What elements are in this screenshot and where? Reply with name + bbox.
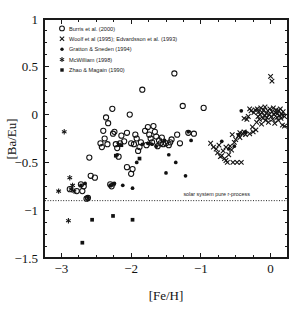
- y-tick-label: 0: [32, 107, 39, 122]
- x-tick-label: −3: [55, 261, 69, 276]
- plot-background: [0, 0, 305, 314]
- legend-label: Gratton & Sneden (1994): [69, 46, 132, 52]
- data-point: [80, 241, 84, 245]
- y-tick-label: −1: [24, 203, 38, 218]
- data-point: [135, 161, 139, 165]
- chart-annotation: solar system pure r-process: [183, 191, 250, 197]
- y-axis-title: [Ba/Eu]: [4, 118, 19, 159]
- data-point: [120, 143, 124, 147]
- data-point: [186, 130, 190, 134]
- data-point: [131, 186, 135, 190]
- ba-eu-vs-fe-h-scatter-plot: −3−2−10−1.5−1−0.500.51 solar system pure…: [0, 0, 305, 314]
- data-point: [227, 147, 231, 151]
- data-point: [232, 144, 236, 148]
- legend-entry-4: Zhao & Magain (1990): [60, 67, 124, 73]
- data-point: [90, 218, 94, 222]
- data-point: [220, 140, 224, 144]
- x-tick-label: 0: [267, 261, 274, 276]
- data-point: [163, 139, 167, 143]
- data-point: [164, 171, 168, 175]
- data-point: [83, 182, 87, 186]
- legend-label: Burris et al. (2000): [69, 26, 115, 32]
- data-point: [111, 214, 115, 218]
- legend-entry-1: Woolf et al (1995); Edvardsson et al. (1…: [60, 36, 177, 42]
- data-point: [239, 109, 243, 113]
- data-point: [244, 130, 248, 134]
- y-tick-label: 0.5: [22, 59, 38, 74]
- data-point: [121, 183, 125, 187]
- data-point: [167, 153, 171, 157]
- legend-label: Zhao & Magain (1990): [69, 67, 125, 73]
- data-point: [140, 142, 144, 146]
- data-point: [184, 174, 188, 178]
- data-point: [114, 154, 118, 158]
- y-tick-label: −1.5: [14, 251, 38, 266]
- legend-label: Woolf et al (1995); Edvardsson et al. (1…: [69, 36, 177, 42]
- figure-container: −3−2−10−1.5−1−0.500.51 solar system pure…: [0, 0, 305, 314]
- data-point: [138, 157, 142, 161]
- data-point: [174, 161, 178, 165]
- data-point: [189, 139, 193, 143]
- legend-label: McWilliam (1998): [69, 57, 112, 63]
- annotations-layer: solar system pure r-process: [183, 191, 250, 197]
- data-point: [131, 218, 135, 222]
- x-tick-label: −1: [194, 261, 208, 276]
- x-axis-title: [Fe/H]: [149, 288, 184, 303]
- legend-marker-filled-circle: [60, 47, 63, 50]
- data-point: [237, 133, 241, 137]
- x-tick-label: −2: [124, 261, 138, 276]
- legend-entry-2: Gratton & Sneden (1994): [60, 46, 131, 52]
- data-point: [154, 144, 158, 148]
- data-point: [79, 183, 83, 187]
- y-tick-label: 1: [32, 12, 39, 27]
- legend-marker-filled-square: [60, 68, 63, 71]
